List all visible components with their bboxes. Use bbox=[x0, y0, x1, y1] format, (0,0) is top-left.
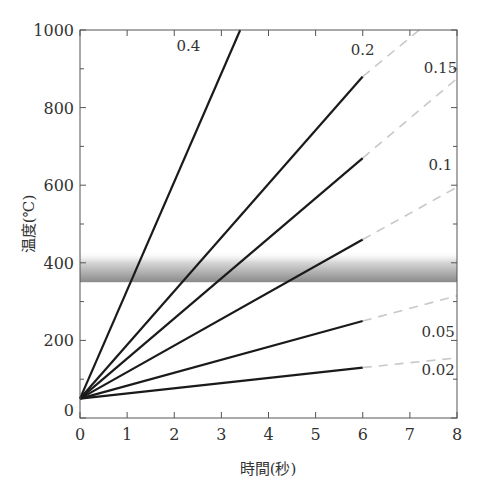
x-tick-label: 1 bbox=[122, 425, 132, 444]
series-extrapolation-0.05 bbox=[363, 296, 457, 321]
y-tick-label: 200 bbox=[43, 331, 74, 350]
series-label-0.15: 0.15 bbox=[424, 59, 457, 77]
x-tick-label: 0 bbox=[75, 425, 85, 444]
series-label-0.2: 0.2 bbox=[351, 41, 375, 59]
series-label-0.1: 0.1 bbox=[429, 156, 453, 174]
series-label-0.4: 0.4 bbox=[176, 37, 200, 55]
series-label-0.02: 0.02 bbox=[421, 361, 454, 379]
series-label-0.05: 0.05 bbox=[421, 323, 454, 341]
x-tick-label: 2 bbox=[169, 425, 179, 444]
series-extrapolation-0.15 bbox=[363, 79, 457, 159]
x-tick-label: 6 bbox=[358, 425, 368, 444]
series-extrapolation-0.1 bbox=[363, 187, 457, 239]
y-tick-label: 400 bbox=[43, 254, 74, 273]
x-tick-label: 7 bbox=[405, 425, 415, 444]
series-labels: 0.40.20.150.10.050.02 bbox=[176, 37, 457, 379]
y-tick-label: 600 bbox=[43, 176, 74, 195]
series-lines bbox=[80, 30, 457, 399]
temperature-time-chart: 01234567820040060080010000 0.40.20.150.1… bbox=[0, 0, 480, 497]
y-tick-label: 1000 bbox=[33, 21, 74, 40]
series-line-0.2 bbox=[80, 77, 363, 399]
series-line-0.05 bbox=[80, 321, 363, 399]
y-tick-label: 800 bbox=[43, 99, 74, 118]
x-tick-label: 5 bbox=[311, 425, 321, 444]
series-line-0.02 bbox=[80, 368, 363, 399]
y-tick-label: 0 bbox=[64, 401, 74, 420]
plot-frame bbox=[80, 30, 457, 418]
x-tick-label: 4 bbox=[263, 425, 273, 444]
x-tick-label: 8 bbox=[452, 425, 462, 444]
x-axis-label: 時間(秒) bbox=[240, 460, 297, 478]
y-axis-label: 温度(℃) bbox=[20, 195, 38, 253]
x-tick-label: 3 bbox=[216, 425, 226, 444]
series-line-0.4 bbox=[80, 30, 240, 399]
